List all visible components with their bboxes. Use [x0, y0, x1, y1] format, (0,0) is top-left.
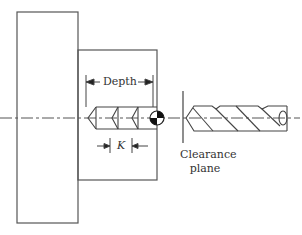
drilling-diagram: Depth K Clearance plane	[0, 0, 302, 235]
clearance-label: Clearance	[180, 149, 230, 160]
program-zero-marker	[150, 111, 164, 125]
k-label: K	[117, 140, 125, 151]
depth-label: Depth	[103, 76, 137, 87]
plane-label: plane	[180, 163, 230, 174]
diagram-canvas	[0, 0, 302, 235]
